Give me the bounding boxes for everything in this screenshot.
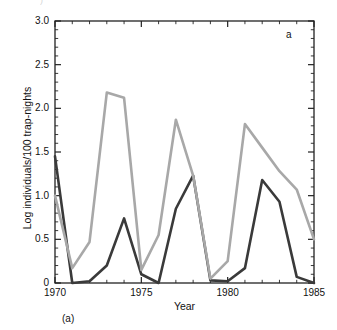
y-tick-label: 3.0	[21, 15, 49, 26]
x-tick-label: 1980	[205, 287, 251, 298]
x-tick-label: 1975	[118, 287, 164, 298]
y-tick-label: 0.5	[21, 233, 49, 244]
series-line-light	[55, 93, 314, 279]
panel-label-below: (a)	[62, 313, 74, 324]
y-tick-label: 1.5	[21, 146, 49, 157]
x-axis-label: Year	[55, 300, 314, 312]
chart-canvas	[0, 0, 337, 330]
y-tick-label: 1.0	[21, 190, 49, 201]
y-tick-label: 2.0	[21, 102, 49, 113]
series-line-dark	[55, 156, 314, 283]
x-tick-label: 1970	[32, 287, 78, 298]
y-tick-label: 2.5	[21, 59, 49, 70]
panel-label-inside: a	[286, 29, 292, 40]
series-layer	[55, 93, 314, 283]
x-tick-label: 1985	[291, 287, 337, 298]
figure-panel: ) Log individuals/100 trap-nights Year 0…	[0, 0, 337, 330]
